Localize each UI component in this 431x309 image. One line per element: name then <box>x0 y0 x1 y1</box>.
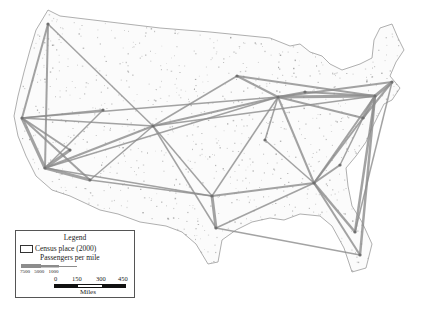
hub-marker <box>210 194 213 197</box>
hub-marker <box>358 253 361 256</box>
hub-marker <box>235 74 238 77</box>
legend: Legend Census place (2000) Passengers pe… <box>15 230 135 298</box>
hub-marker <box>88 178 91 181</box>
hub-marker <box>338 163 341 166</box>
census-place-swatch <box>20 245 33 253</box>
legend-title: Legend <box>16 233 134 242</box>
legend-census-entry: Census place (2000) <box>20 244 96 253</box>
hub-marker <box>276 95 279 98</box>
hub-marker <box>312 181 315 184</box>
hub-marker <box>68 148 71 151</box>
legend-passengers-label: Passengers per mile <box>40 253 100 262</box>
hub-marker <box>46 22 49 25</box>
hub-marker <box>390 80 393 83</box>
hub-marker <box>214 226 217 229</box>
hub-marker <box>361 116 364 119</box>
hub-marker <box>151 124 154 127</box>
hub-marker <box>353 230 356 233</box>
hub-marker <box>43 166 46 169</box>
legend-census-label: Census place (2000) <box>35 244 96 253</box>
hub-marker <box>263 138 266 141</box>
legend-passenger-breaks: 7500 5000 1000 <box>20 269 62 274</box>
hub-marker <box>20 116 23 119</box>
scale-unit: Miles <box>80 288 96 296</box>
hub-marker <box>101 108 104 111</box>
hub-marker <box>373 94 376 97</box>
hub-marker <box>303 90 306 93</box>
